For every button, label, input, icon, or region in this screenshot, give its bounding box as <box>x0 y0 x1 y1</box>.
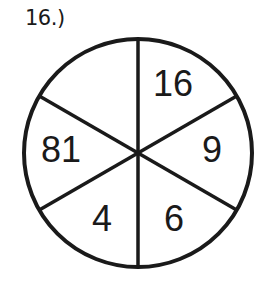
segment-top-right: 16 <box>153 63 193 104</box>
number-wheel: 16 9 6 4 81 <box>0 0 268 285</box>
segment-bottom-left: 4 <box>92 198 112 239</box>
segment-bottom-right: 6 <box>164 198 184 239</box>
segment-left: 81 <box>41 129 81 170</box>
segment-right: 9 <box>202 129 222 170</box>
